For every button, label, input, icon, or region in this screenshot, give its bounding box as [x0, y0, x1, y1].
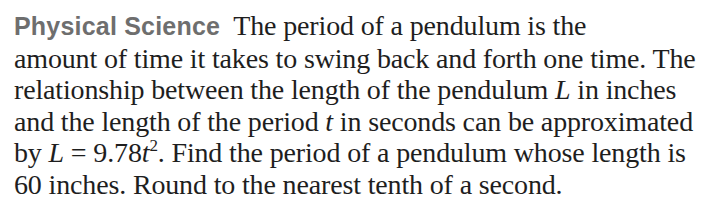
equation-exponent: 2 [149, 136, 157, 155]
problem-text: by [14, 137, 42, 168]
equation: L = 9.78t2 [49, 137, 158, 168]
variable-time: t [325, 106, 333, 137]
problem-line-3: relationship between the length of the p… [14, 74, 726, 106]
problem-text: in seconds can be approximated [340, 106, 693, 137]
problem-line-1: Physical Science The period of a pendulu… [14, 10, 726, 43]
problem-text: The period of a pendulum is the [233, 10, 586, 41]
problem-text: . Find the period of a pendulum whose le… [158, 137, 686, 168]
problem-line-5: by L = 9.78t2. Find the period of a pend… [14, 137, 726, 169]
variable-length: L [555, 74, 570, 105]
problem-text: and the length of the period [14, 106, 318, 137]
equation-variable-length: L [49, 137, 64, 168]
problem-heading: Physical Science [14, 12, 220, 40]
problem-text: 60 inches. Round to the nearest tenth of… [14, 169, 562, 200]
problem-line-2: amount of time it takes to swing back an… [14, 43, 726, 75]
problem-text: relationship between the length of the p… [14, 74, 548, 105]
equation-rhs: = 9.78 [71, 137, 142, 168]
problem-text: in inches [577, 74, 676, 105]
problem-text: amount of time it takes to swing back an… [14, 43, 696, 74]
problem-line-6: 60 inches. Round to the nearest tenth of… [14, 169, 726, 201]
problem-line-4: and the length of the period t in second… [14, 106, 726, 138]
word-problem: Physical Science The period of a pendulu… [14, 10, 726, 201]
